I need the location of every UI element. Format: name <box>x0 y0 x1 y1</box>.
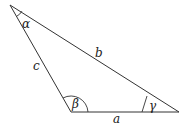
angle-alpha-arc <box>17 11 22 16</box>
side-b-label: b <box>95 46 103 60</box>
side-c-label: c <box>33 59 40 73</box>
angle-gamma-label: γ <box>149 99 157 113</box>
angle-gamma-mark <box>142 96 147 112</box>
angle-alpha-label: α <box>22 17 30 31</box>
triangle-diagram: α β γ c b a <box>0 0 191 125</box>
side-a-label: a <box>113 112 120 125</box>
angle-beta-label: β <box>71 97 79 111</box>
